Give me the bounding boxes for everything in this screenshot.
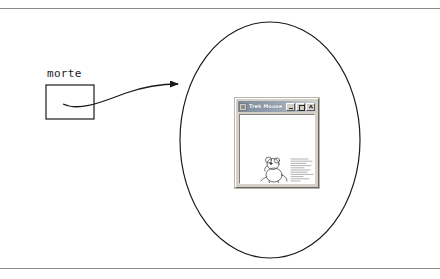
window-controls [286, 103, 315, 111]
morte-box [46, 85, 94, 119]
minimize-button[interactable] [286, 103, 295, 111]
application-icon [239, 103, 247, 111]
window-title-bar[interactable]: Trek Mouse [238, 101, 316, 112]
screenshot-canvas: morte Trek Mouse [0, 0, 440, 279]
window-title-text: Trek Mouse [249, 101, 286, 112]
morte-node-label: morte [47, 67, 82, 80]
window-client-area [239, 114, 315, 184]
maximize-button[interactable] [296, 103, 305, 111]
close-button[interactable] [306, 103, 315, 111]
mouse-illustration [260, 155, 315, 184]
diagram-vector-layer [0, 0, 440, 279]
trek-mouse-window[interactable]: Trek Mouse [235, 98, 319, 188]
connector-arrow [63, 84, 178, 107]
